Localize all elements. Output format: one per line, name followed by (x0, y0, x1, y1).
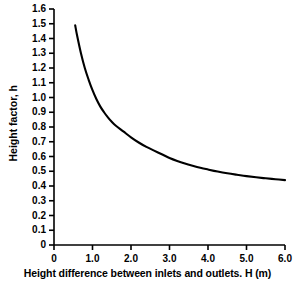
y-axis-tick-label: 0.8 (18, 122, 46, 132)
x-axis-tick-label: 0 (39, 254, 69, 264)
y-axis-tick-label: 1.5 (18, 19, 46, 29)
data-curve-line (75, 25, 285, 180)
y-axis-tick-label: 0.3 (18, 196, 46, 206)
y-axis-tick-label: 1.6 (18, 4, 46, 14)
y-axis-tick-label: 1.2 (18, 63, 46, 73)
x-axis-title: Height difference between inlets and out… (0, 268, 295, 279)
y-axis-tick-label: 0.2 (18, 211, 46, 221)
x-axis-tick-label: 6.0 (270, 254, 295, 264)
y-axis-tick-label: 0.4 (18, 181, 46, 191)
x-axis-tick-label: 1.0 (78, 254, 108, 264)
x-axis-tick-label: 3.0 (155, 254, 185, 264)
y-axis-tick-label: 0.6 (18, 152, 46, 162)
y-axis-title: Height factor, h (8, 58, 19, 188)
y-axis-tick-label: 0.7 (18, 137, 46, 147)
x-axis-tick-label: 2.0 (116, 254, 146, 264)
x-axis-tick-label: 5.0 (232, 254, 262, 264)
y-axis-tick-label: 1.1 (18, 78, 46, 88)
axis-lines (54, 9, 285, 245)
y-axis-tick-label: 1.3 (18, 48, 46, 58)
chart-container: 00.10.20.30.40.50.60.70.80.91.01.11.21.3… (0, 0, 295, 283)
y-axis-tick-label: 1.4 (18, 34, 46, 44)
y-axis-tick-label: 1.0 (18, 93, 46, 103)
x-axis-tick-label: 4.0 (193, 254, 223, 264)
y-axis-tick-label: 0.1 (18, 225, 46, 235)
y-axis-tick-label: 0.5 (18, 166, 46, 176)
y-axis-tick-label: 0.9 (18, 107, 46, 117)
y-axis-tick-label: 0 (18, 240, 46, 250)
